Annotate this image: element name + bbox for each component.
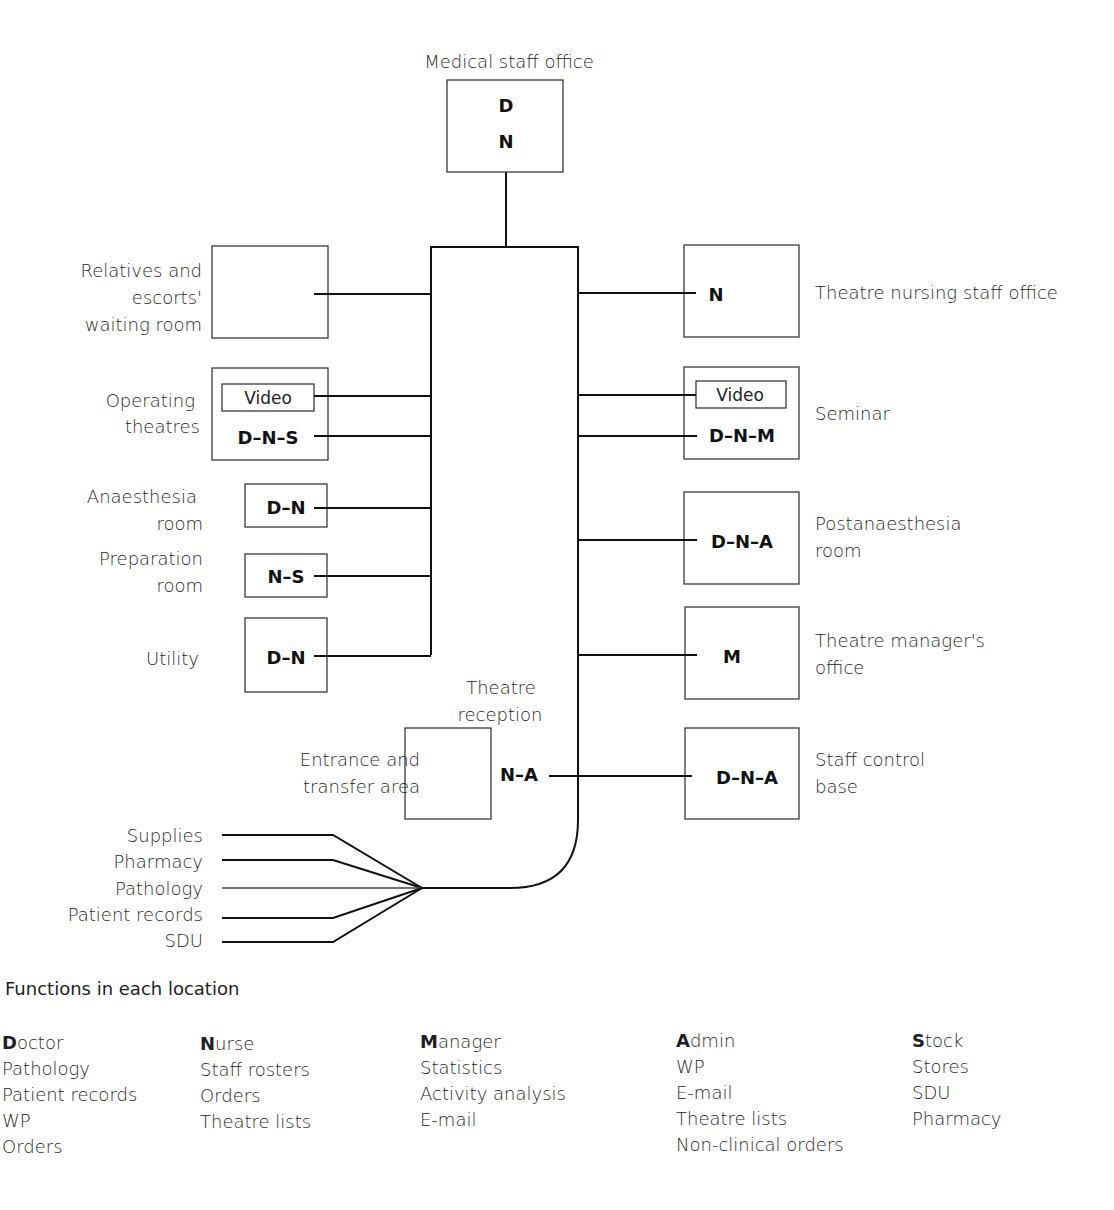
svg-text:Theatre nursing staff office: Theatre nursing staff office — [815, 282, 1058, 303]
svg-text:office: office — [815, 657, 864, 678]
external-link-sdu: SDU — [165, 930, 203, 951]
svg-text:Relatives and: Relatives and — [80, 260, 202, 281]
legend-column-doctor: Doctor Pathology Patient records WP Orde… — [2, 1030, 137, 1160]
svg-text:Theatre manager's: Theatre manager's — [815, 630, 985, 651]
svg-text:reception: reception — [458, 704, 543, 725]
svg-text:room: room — [156, 513, 203, 534]
room-utility: Utility D–N — [146, 618, 431, 692]
svg-text:D–N–A: D–N–A — [716, 767, 778, 788]
svg-text:Video: Video — [716, 385, 764, 405]
legend-column-admin: Admin WP E-mail Theatre lists Non-clinic… — [676, 1028, 844, 1158]
room-theatre-nursing-office: N Theatre nursing staff office — [578, 245, 1058, 337]
room-label: Medical staff office — [424, 51, 594, 72]
svg-text:Anaesthesia: Anaesthesia — [87, 486, 197, 507]
legend-title: Functions in each location — [5, 978, 239, 999]
svg-text:Video: Video — [244, 388, 292, 408]
room-theatre-reception: Theatre reception N–A Entrance and trans… — [300, 677, 543, 819]
svg-text:Preparation: Preparation — [99, 548, 203, 569]
room-relatives-waiting: Relatives and escorts' waiting room — [80, 246, 431, 338]
room-staff-control-base: D–N–A Staff control base — [549, 728, 925, 819]
external-link-patient-records: Patient records — [68, 904, 203, 925]
svg-text:Utility: Utility — [146, 648, 199, 669]
external-links: Supplies Pharmacy Pathology Patient reco… — [68, 825, 422, 951]
external-link-supplies: Supplies — [127, 825, 203, 846]
svg-text:transfer area: transfer area — [303, 776, 420, 797]
room-preparation: Preparation room N–S — [99, 548, 431, 597]
svg-text:room: room — [156, 575, 203, 596]
room-anaesthesia: Anaesthesia room D–N — [87, 484, 431, 534]
svg-text:theatres: theatres — [125, 416, 200, 437]
svg-text:escorts': escorts' — [132, 287, 202, 308]
external-link-pathology: Pathology — [115, 878, 203, 899]
svg-text:waiting room: waiting room — [85, 314, 202, 335]
legend-column-stock: Stock Stores SDU Pharmacy — [912, 1028, 1002, 1132]
svg-text:M: M — [723, 646, 741, 667]
svg-text:D–N: D–N — [266, 647, 305, 668]
svg-text:N–S: N–S — [267, 566, 304, 587]
entrance-label: Entrance and — [300, 749, 420, 770]
svg-text:N–A: N–A — [500, 764, 538, 785]
svg-text:Postanaesthesia: Postanaesthesia — [815, 513, 962, 534]
legend-column-nurse: Nurse Staff rosters Orders Theatre lists — [200, 1031, 311, 1135]
room-theatre-manager-office: M Theatre manager's office — [578, 607, 985, 699]
svg-text:Operating: Operating — [106, 390, 195, 411]
legend-column-manager: Manager Statistics Activity analysis E-m… — [420, 1029, 566, 1133]
function-code: D — [499, 95, 514, 116]
svg-text:N: N — [708, 284, 723, 305]
svg-text:Theatre: Theatre — [466, 677, 536, 698]
room-postanaesthesia: D–N–A Postanaesthesia room — [578, 492, 962, 584]
svg-text:Seminar: Seminar — [815, 403, 890, 424]
room-medical-staff-office: Medical staff office D N — [424, 51, 594, 172]
svg-text:base: base — [815, 776, 858, 797]
svg-text:room: room — [815, 540, 862, 561]
svg-text:D–N–A: D–N–A — [711, 531, 773, 552]
svg-text:Staff control: Staff control — [815, 749, 925, 770]
svg-text:D–N: D–N — [266, 497, 305, 518]
room-operating-theatres: Operating theatres Video D–N–S — [106, 368, 431, 460]
svg-text:D–N–S: D–N–S — [238, 427, 299, 448]
room-seminar: Video D–N–M Seminar — [578, 367, 890, 459]
svg-text:D–N–M: D–N–M — [709, 425, 775, 446]
external-link-pharmacy: Pharmacy — [114, 851, 204, 872]
function-code: N — [498, 131, 513, 152]
